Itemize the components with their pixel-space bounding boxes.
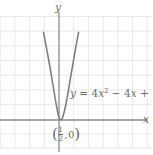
vertex-denominator: 2 <box>58 134 63 143</box>
equation-minus: − <box>112 87 121 99</box>
equation-constant: 1 <box>152 87 153 99</box>
vertex-close-paren: ) <box>74 127 80 142</box>
vertex-fraction: 12 <box>58 126 63 143</box>
equation-term1-exponent: 2 <box>104 87 108 95</box>
parabola-figure: y x y = 4x2 − 4x + 1 (12,0) <box>0 0 153 155</box>
vertex-comma: , <box>64 130 67 140</box>
y-axis-label: y <box>55 2 61 13</box>
equation-equals: = <box>79 87 88 99</box>
equation-term2-coeff: 4 <box>124 87 131 99</box>
vertex-label: (12,0) <box>52 126 80 143</box>
x-axis-label: x <box>143 114 149 125</box>
equation-lhs: y <box>70 87 76 99</box>
equation-label: y = 4x2 − 4x + 1 <box>70 88 153 99</box>
vertex-open-paren: ( <box>52 127 58 142</box>
equation-plus: + <box>140 87 149 99</box>
vertex-numerator: 1 <box>58 126 63 134</box>
equation-term2-var: x <box>131 87 137 99</box>
